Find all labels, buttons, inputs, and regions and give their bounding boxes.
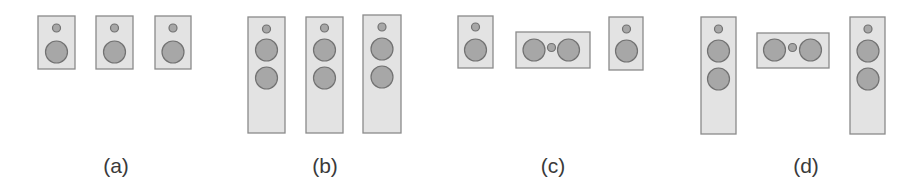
woofer-icon bbox=[371, 38, 393, 60]
tower-speaker-icon bbox=[701, 17, 736, 134]
tweeter-icon bbox=[169, 24, 177, 32]
panel-label-c: (c) bbox=[523, 154, 583, 178]
woofer-icon bbox=[162, 41, 184, 63]
tweeter-icon bbox=[472, 23, 480, 31]
woofer-icon bbox=[465, 39, 487, 61]
woofer-icon bbox=[708, 68, 730, 90]
woofer-icon bbox=[857, 68, 879, 90]
woofer-icon bbox=[800, 39, 822, 61]
bookshelf-speaker-icon bbox=[38, 16, 75, 69]
speaker-configuration-diagram: (a) (b) (c) (d) bbox=[0, 0, 915, 194]
tower-speaker-icon bbox=[306, 17, 343, 133]
tweeter-icon bbox=[321, 24, 329, 32]
woofer-icon bbox=[314, 39, 336, 61]
tweeter-icon bbox=[263, 25, 271, 33]
tweeter-icon bbox=[53, 24, 61, 32]
tweeter-icon bbox=[789, 44, 797, 52]
tower-speaker-icon bbox=[248, 17, 285, 133]
tower-speaker-icon bbox=[850, 17, 885, 134]
panel-label-a: (a) bbox=[86, 154, 146, 178]
panel-label-d: (d) bbox=[776, 154, 836, 178]
woofer-icon bbox=[857, 40, 879, 62]
woofer-icon bbox=[708, 40, 730, 62]
woofer-icon bbox=[371, 66, 393, 88]
woofer-icon bbox=[256, 39, 278, 61]
bookshelf-speaker-icon bbox=[96, 16, 133, 69]
bookshelf-speaker-icon bbox=[609, 17, 643, 70]
panel-label-b: (b) bbox=[295, 154, 355, 178]
tower-speaker-icon bbox=[363, 15, 401, 133]
tweeter-icon bbox=[378, 23, 386, 31]
center-speaker-icon bbox=[757, 33, 829, 68]
woofer-icon bbox=[616, 40, 638, 62]
woofer-icon bbox=[46, 41, 68, 63]
tweeter-icon bbox=[111, 24, 119, 32]
panel-d bbox=[701, 17, 885, 134]
woofer-icon bbox=[104, 41, 126, 63]
woofer-icon bbox=[256, 67, 278, 89]
woofer-icon bbox=[314, 67, 336, 89]
panel-a bbox=[38, 16, 191, 69]
woofer-icon bbox=[558, 39, 580, 61]
tweeter-icon bbox=[548, 44, 556, 52]
woofer-icon bbox=[523, 39, 545, 61]
tweeter-icon bbox=[623, 25, 631, 33]
tweeter-icon bbox=[715, 25, 723, 33]
bookshelf-speaker-icon bbox=[155, 16, 191, 69]
woofer-icon bbox=[764, 39, 786, 61]
center-speaker-icon bbox=[516, 32, 590, 68]
panel-c bbox=[458, 16, 643, 70]
tweeter-icon bbox=[864, 25, 872, 33]
bookshelf-speaker-icon bbox=[458, 16, 493, 68]
panel-b bbox=[248, 15, 401, 133]
